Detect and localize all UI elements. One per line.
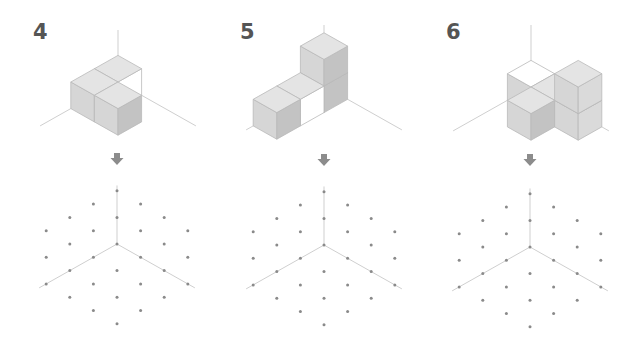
grid-dot: [393, 230, 396, 233]
grid-dot: [299, 230, 302, 233]
grid-dot: [346, 283, 349, 286]
grid-dot: [275, 244, 278, 247]
grid-dot: [599, 259, 602, 262]
grid-dot: [299, 310, 302, 313]
grid-dot: [139, 282, 142, 285]
grid-dot: [45, 229, 48, 232]
grid-dot: [481, 246, 484, 249]
grid-dot: [505, 259, 508, 262]
grid-dot: [275, 217, 278, 220]
grid-dot: [92, 229, 95, 232]
grid-dot: [529, 272, 532, 275]
grid-dot: [370, 217, 373, 220]
grid-dot: [186, 229, 189, 232]
grid-dot: [68, 243, 71, 246]
grid-dot: [323, 244, 326, 247]
grid-dot: [458, 285, 461, 288]
grid-dot: [116, 243, 119, 246]
grid-dot: [529, 192, 532, 195]
grid-dot: [370, 244, 373, 247]
grid-dot: [68, 269, 71, 272]
grid-dot: [116, 189, 119, 192]
grid-dot: [529, 299, 532, 302]
grid-dot: [45, 256, 48, 259]
grid-dot: [481, 299, 484, 302]
grid-dot: [252, 230, 255, 233]
grid-dot: [275, 297, 278, 300]
grid-dot: [299, 283, 302, 286]
grid-dot: [370, 297, 373, 300]
down-arrow-icon: [318, 154, 331, 166]
grid-dot: [505, 312, 508, 315]
isometric-dot-grid-4: [39, 185, 195, 325]
grid-dot: [576, 272, 579, 275]
grid-dot: [92, 282, 95, 285]
grid-dot: [552, 285, 555, 288]
grid-dot: [163, 296, 166, 299]
grid-left-axis: [39, 244, 117, 288]
grid-dot: [552, 206, 555, 209]
grid-dot: [393, 257, 396, 260]
cube-figure-4: [40, 30, 196, 135]
grid-dot: [92, 203, 95, 206]
grid-dot: [163, 243, 166, 246]
grid-dot: [92, 309, 95, 312]
grid-right-axis: [117, 244, 195, 288]
grid-dot: [529, 246, 532, 249]
grid-dot: [346, 310, 349, 313]
grid-dot: [346, 257, 349, 260]
grid-dot: [68, 216, 71, 219]
grid-dot: [552, 259, 555, 262]
grid-dot: [552, 232, 555, 235]
grid-right-axis: [530, 247, 608, 291]
grid-dot: [186, 256, 189, 259]
grid-dot: [458, 259, 461, 262]
grid-dot: [599, 232, 602, 235]
grid-dot: [529, 219, 532, 222]
grid-dot: [323, 270, 326, 273]
cube-figure-6: [453, 25, 609, 140]
grid-dot: [275, 270, 278, 273]
grid-dot: [481, 272, 484, 275]
grid-dot: [505, 232, 508, 235]
down-arrow-icon: [111, 153, 124, 165]
grid-dot: [529, 325, 532, 328]
grid-dot: [116, 296, 119, 299]
grid-dot: [576, 219, 579, 222]
grid-dot: [116, 269, 119, 272]
grid-dot: [139, 203, 142, 206]
grid-dot: [45, 282, 48, 285]
grid-dot: [299, 257, 302, 260]
grid-dot: [505, 285, 508, 288]
isometric-dot-grid-6: [452, 188, 608, 328]
grid-dot: [68, 296, 71, 299]
down-arrow-icon: [524, 154, 537, 166]
grid-dot: [299, 204, 302, 207]
grid-dot: [458, 232, 461, 235]
grid-right-axis: [324, 245, 402, 289]
grid-dot: [599, 285, 602, 288]
grid-dot: [323, 323, 326, 326]
grid-dot: [139, 229, 142, 232]
grid-dot: [92, 256, 95, 259]
grid-dot: [576, 246, 579, 249]
grid-dot: [346, 230, 349, 233]
grid-dot: [323, 297, 326, 300]
grid-dot: [116, 322, 119, 325]
grid-dot: [116, 216, 119, 219]
cube-figure-5: [246, 25, 402, 139]
grid-dot: [252, 257, 255, 260]
grid-dot: [163, 269, 166, 272]
grid-dot: [346, 204, 349, 207]
grid-dot: [481, 219, 484, 222]
grid-dot: [163, 216, 166, 219]
grid-dot: [505, 206, 508, 209]
grid-dot: [139, 309, 142, 312]
grid-dot: [186, 282, 189, 285]
grid-dot: [252, 283, 255, 286]
isometric-dot-grid-5: [246, 186, 402, 326]
grid-dot: [393, 283, 396, 286]
grid-left-axis: [246, 245, 324, 289]
grid-left-axis: [452, 247, 530, 291]
grid-dot: [323, 190, 326, 193]
